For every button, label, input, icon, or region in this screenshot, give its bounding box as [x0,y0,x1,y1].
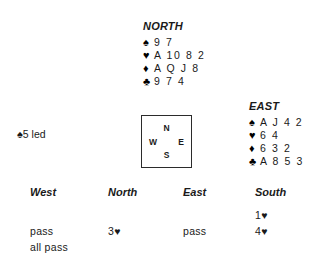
hand-east-label: EAST [249,100,304,112]
hand-east-hearts-cards: 6 4 [260,129,279,141]
hand-north-clubs-cards: 9 7 4 [154,75,185,87]
auction-cell-west: pass [30,225,108,241]
auction-table: West North East South 1♥ pass 3♥ pass [30,186,300,256]
auction-row: pass 3♥ pass 4♥ [30,225,300,241]
club-icon: ♣ [143,76,154,87]
compass-south-label: S [164,151,170,160]
auction-cell-east [183,209,255,225]
auction-cell-west: all pass [30,241,108,256]
auction-header-west: West [30,186,108,209]
auction-cell-south [255,241,300,256]
auction-cell-north: 3♥ [108,225,183,241]
compass-north-label: N [163,124,169,133]
hand-north-spades: ♠ 9 7 [143,36,205,49]
heart-icon: ♥ [143,50,154,61]
diamond-icon: ♦ [143,63,154,74]
auction-cell-south: 4♥ [255,225,300,241]
hand-north: NORTH ♠ 9 7 ♥ A 10 8 2 ♦ A Q J 8 ♣ 9 7 4 [143,20,205,88]
hand-east-spades-cards: A J 4 2 [260,116,303,128]
auction-cell-east: pass [183,225,255,241]
opening-lead-text: 5 led [23,128,46,140]
opening-lead: ♠ 5 led [17,128,46,140]
club-icon: ♣ [249,156,260,167]
auction-header-row: West North East South [30,186,300,209]
hand-east-diamonds-cards: 6 3 2 [260,142,291,154]
compass-west-label: W [149,137,157,146]
diamond-icon: ♦ [249,143,260,154]
hand-north-clubs: ♣ 9 7 4 [143,75,205,88]
compass-east-label: E [178,137,184,146]
auction-row: 1♥ [30,209,300,225]
bridge-hand-diagram: NORTH ♠ 9 7 ♥ A 10 8 2 ♦ A Q J 8 ♣ 9 7 4… [0,0,317,256]
hand-north-hearts-cards: A 10 8 2 [154,49,205,61]
auction-header-east: East [183,186,255,209]
hand-north-label: NORTH [143,20,205,32]
auction-row: all pass [30,241,300,256]
auction-header-north: North [108,186,183,209]
hand-north-spades-cards: 9 7 [154,36,173,48]
spade-icon: ♠ [143,37,154,48]
compass-box: N W E S [141,115,192,168]
hand-east-clubs-cards: A 8 5 3 [260,155,304,167]
hand-east: EAST ♠ A J 4 2 ♥ 6 4 ♦ 6 3 2 ♣ A 8 5 3 [249,100,304,168]
hand-east-hearts: ♥ 6 4 [249,129,304,142]
spade-icon: ♠ [249,117,260,128]
auction-header-south: South [255,186,300,209]
hand-north-diamonds-cards: A Q J 8 [154,62,200,74]
hand-east-diamonds: ♦ 6 3 2 [249,142,304,155]
auction-cell-north [108,241,183,256]
hand-north-diamonds: ♦ A Q J 8 [143,62,205,75]
auction-cell-west [30,209,108,225]
auction-cell-east [183,241,255,256]
hand-north-hearts: ♥ A 10 8 2 [143,49,205,62]
heart-icon: ♥ [249,130,260,141]
auction-cell-north [108,209,183,225]
hand-east-spades: ♠ A J 4 2 [249,116,304,129]
hand-east-clubs: ♣ A 8 5 3 [249,155,304,168]
auction-cell-south: 1♥ [255,209,300,225]
